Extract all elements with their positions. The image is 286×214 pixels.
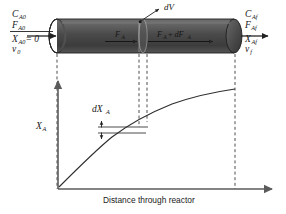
dv-label: dV (164, 2, 176, 12)
inlet-conversion-value: = 0 (26, 34, 40, 44)
downstream-molar-flow-symbol: F (156, 30, 163, 39)
differential-element-dv (139, 19, 147, 53)
inlet-molar-flow-subscript: A0 (17, 24, 26, 31)
inlet-label-group: C A0 F A0 X A0 = 0 v 0 (10, 9, 53, 55)
upstream-molar-flow-symbol: F (114, 30, 121, 39)
dxa-label-symbol: dX (92, 104, 104, 114)
upstream-molar-flow-subscript: A (121, 34, 126, 40)
dxa-increment-annotation: dX A (92, 104, 148, 139)
outlet-volumetric-flow-subscript: f (250, 48, 253, 55)
downstream-differential-subscript: A (187, 34, 192, 40)
downstream-differential-symbol: dF (175, 30, 185, 39)
downstream-plus-sign: + (168, 30, 174, 39)
outlet-conversion-subscript: Af (251, 38, 259, 45)
reactor-assembly: dV F A F A + dF A (10, 2, 268, 55)
outlet-label-group: C Af F Af X Af v f (244, 9, 259, 55)
y-axis-label-group: X A (35, 121, 47, 132)
x-axis-label: Distance through reactor (103, 195, 195, 205)
inlet-concentration-symbol: C (12, 9, 19, 19)
reactor-conversion-figure: dV F A F A + dF A (0, 0, 286, 214)
y-axis-label-subscript: A (42, 125, 47, 132)
outlet-concentration-symbol: C (245, 9, 252, 19)
projection-lines (57, 54, 235, 189)
inlet-concentration-subscript: A0 (18, 13, 27, 20)
outlet-concentration-subscript: Af (251, 13, 259, 20)
plot-axes (58, 81, 272, 189)
dv-leader-anchor (139, 20, 142, 23)
inlet-volumetric-flow-subscript: 0 (17, 48, 21, 55)
conversion-curve (59, 89, 235, 187)
outlet-molar-flow-subscript: Af (250, 24, 258, 31)
inlet-molar-flow-symbol: F (11, 20, 18, 30)
outlet-molar-flow-symbol: F (244, 20, 251, 30)
dxa-label-subscript: A (105, 108, 110, 115)
reactor-right-endcap (226, 19, 242, 53)
